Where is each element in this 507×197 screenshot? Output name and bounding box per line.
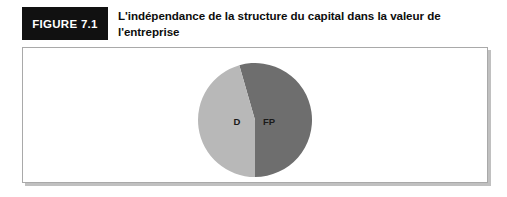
figure-number-badge: FIGURE 7.1 [22,7,108,40]
figure-title: L'indépendance de la structure du capita… [118,8,493,39]
pie-slice-label-fp: FP [263,116,276,127]
figure-container: FIGURE 7.1 L'indépendance de la structur… [0,0,507,197]
chart-frame: FP D [22,47,488,183]
pie-chart-svg: FP D [197,62,313,178]
figure-number-label: FIGURE 7.1 [32,18,98,30]
pie-chart: FP D [197,62,313,178]
pie-slice-label-d: D [234,116,241,127]
